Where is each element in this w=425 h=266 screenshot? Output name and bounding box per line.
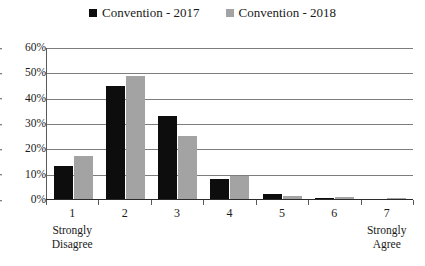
y-tick-mark	[0, 149, 2, 150]
x-label-cell: 6	[308, 206, 360, 252]
legend-item-2017: Convention - 2017	[89, 6, 200, 19]
x-label-cell: 7Strongly Agree	[361, 206, 413, 252]
bar-2018-cat-4	[230, 176, 249, 199]
bar-2017-cat-4	[210, 179, 229, 199]
chart-legend: Convention - 2017 Convention - 2018	[0, 6, 425, 19]
x-anchor-label-disagree: Strongly Disagree	[46, 223, 98, 252]
x-tick-mark	[256, 200, 257, 205]
bar-chart: Convention - 2017 Convention - 2018 0%10…	[0, 0, 425, 266]
bar-2017-cat-1	[54, 166, 73, 199]
y-tick-label: 40%	[2, 93, 46, 105]
y-tick-mark	[0, 99, 2, 100]
bar-2018-cat-3	[178, 136, 197, 199]
bar-2018-cat-6	[335, 197, 354, 199]
x-tick-label: 4	[203, 206, 255, 221]
y-tick-label: 10%	[2, 169, 46, 181]
y-tick-label: 20%	[2, 144, 46, 156]
x-label-cell: 1Strongly Disagree	[46, 206, 98, 252]
x-tick-label: 3	[151, 206, 203, 221]
x-label-cell: 2	[98, 206, 150, 252]
bar-group	[204, 48, 256, 199]
bar-2018-cat-2	[126, 76, 145, 199]
legend-swatch-2017	[89, 9, 97, 17]
x-tick-mark	[413, 200, 414, 205]
bar-group	[361, 48, 413, 199]
bar-2018-cat-1	[74, 156, 93, 199]
legend-label-2017: Convention - 2017	[102, 6, 200, 19]
bars-layer	[47, 48, 413, 199]
x-label-cell: 3	[151, 206, 203, 252]
x-tick-mark	[46, 200, 47, 205]
bar-2017-cat-5	[263, 194, 282, 199]
bar-2018-cat-5	[283, 196, 302, 199]
x-tick-label: 7	[361, 206, 413, 221]
bar-2018-cat-7	[387, 198, 406, 199]
plot-area	[46, 48, 413, 200]
bar-2017-cat-2	[106, 86, 125, 199]
x-label-cell: 5	[256, 206, 308, 252]
bar-2017-cat-6	[315, 198, 334, 199]
y-tick-mark	[0, 200, 2, 201]
x-tick-mark	[308, 200, 309, 205]
y-tick-mark	[0, 73, 2, 74]
y-tick-mark	[0, 124, 2, 125]
y-tick-label: 50%	[2, 68, 46, 80]
x-tick-mark	[203, 200, 204, 205]
y-tick-label: 30%	[2, 118, 46, 130]
x-tick-label: 5	[256, 206, 308, 221]
bar-2017-cat-3	[158, 116, 177, 199]
y-tick-mark	[0, 48, 2, 49]
y-tick-mark	[0, 175, 2, 176]
bar-group	[99, 48, 151, 199]
x-tick-mark	[151, 200, 152, 205]
y-tick-label: 60%	[2, 42, 46, 54]
bar-group	[152, 48, 204, 199]
x-anchor-label-agree: Strongly Agree	[361, 223, 413, 252]
bar-group	[47, 48, 99, 199]
legend-item-2018: Convention - 2018	[226, 6, 337, 19]
x-tick-mark	[98, 200, 99, 205]
legend-label-2018: Convention - 2018	[239, 6, 337, 19]
x-label-cell: 4	[203, 206, 255, 252]
x-tick-label: 1	[46, 206, 98, 221]
x-tick-mark	[361, 200, 362, 205]
x-tick-label: 6	[308, 206, 360, 221]
x-tick-label: 2	[98, 206, 150, 221]
bar-group	[308, 48, 360, 199]
bar-group	[256, 48, 308, 199]
x-axis-labels: 1Strongly Disagree234567Strongly Agree	[46, 206, 413, 252]
legend-swatch-2018	[226, 9, 234, 17]
y-tick-label: 0%	[2, 194, 46, 206]
